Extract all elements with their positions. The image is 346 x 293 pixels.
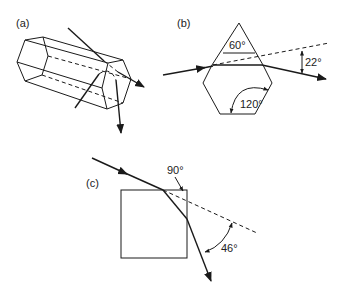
ray-a2-incident — [75, 74, 99, 108]
ray-c-incident-arrow — [92, 158, 127, 174]
panel-b: (b) 60° 120° 22° — [163, 17, 329, 114]
ray-c-inside — [163, 190, 187, 219]
deviation-angle-c-label: 46° — [221, 242, 238, 254]
panel-b-label: (b) — [177, 17, 190, 29]
ray-a2-exit — [116, 80, 121, 133]
panel-a-label: (a) — [16, 17, 29, 29]
corner-angle-label: 90° — [167, 164, 184, 176]
ray-a1-incident — [68, 28, 104, 61]
panel-c-label: (c) — [86, 177, 99, 189]
prism-left-face — [17, 37, 48, 81]
deviation-angle-b-label: 22° — [305, 56, 322, 68]
hexagonal-prism — [17, 28, 144, 133]
figure-canvas: (a) (b) 60° — [0, 0, 346, 293]
interior-angle-label: 120° — [240, 98, 263, 110]
ray-a1-exit — [118, 72, 144, 87]
ray-c-exit — [187, 219, 211, 281]
panel-a: (a) — [16, 17, 144, 133]
corner-angle-pointer — [175, 177, 183, 191]
ray-c-undeviated — [163, 190, 257, 233]
panel-c: (c) 90° 46° — [86, 158, 257, 281]
square-crystal — [121, 190, 187, 258]
apex-angle-label: 60° — [229, 39, 246, 51]
ray-b-incident-arrow — [163, 68, 205, 76]
